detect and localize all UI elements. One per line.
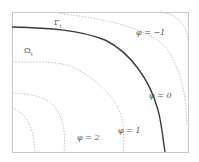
label-domain-sub: t	[31, 51, 33, 57]
label-phi-2: φ = 2	[77, 134, 99, 142]
label-domain-main: Ω	[24, 46, 31, 55]
level-line-phi-1	[12, 62, 124, 152]
level-line-phi-3	[12, 108, 35, 152]
label-domain: Ωt	[24, 47, 33, 57]
level-line-phi-2	[12, 93, 65, 152]
label-interface: Γt	[54, 19, 62, 29]
label-phi-0: φ = 0	[149, 92, 171, 100]
label-phi-1: φ = 1	[118, 127, 140, 135]
label-interface-sub: t	[60, 23, 62, 29]
level-set-diagram	[0, 0, 199, 162]
label-phi-minus-1: φ = −1	[136, 29, 165, 37]
